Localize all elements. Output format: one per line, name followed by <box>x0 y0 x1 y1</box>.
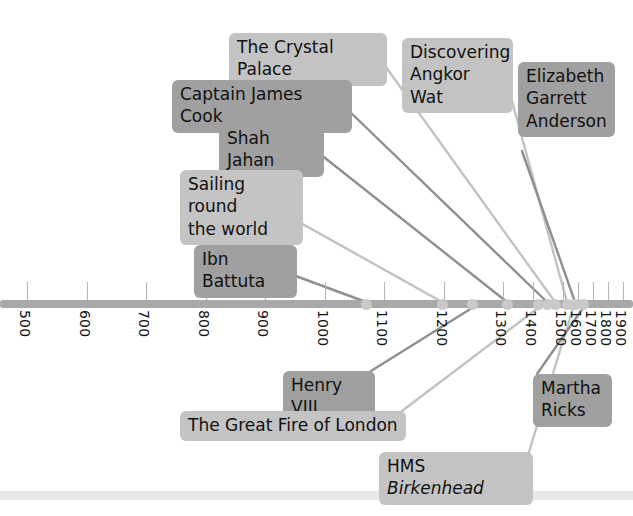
event-label-text: The Crystal Palace <box>237 37 334 79</box>
event-label-elizabeth-garrett-anderson[interactable]: ElizabethGarrettAnderson <box>518 62 615 137</box>
event-label-martha-ricks[interactable]: MarthaRicks <box>533 374 612 427</box>
event-label-shah-jahan[interactable]: Shah Jahan <box>219 124 324 177</box>
event-label-sailing-round-the-world[interactable]: Sailing roundthe world <box>180 170 303 245</box>
event-label-line: Garrett <box>526 87 607 109</box>
event-label-line: Sailing round <box>188 173 295 218</box>
event-label-discovering-angkor-wat[interactable]: DiscoveringAngkor Wat <box>402 38 513 113</box>
event-label-text: Shah Jahan <box>227 128 274 170</box>
event-label-text: The Great Fire of London <box>188 415 398 435</box>
event-label-line: Angkor Wat <box>410 63 505 108</box>
event-label-line: Martha <box>541 377 604 399</box>
event-label-italic-text: Birkenhead <box>387 478 484 498</box>
event-label-the-crystal-palace[interactable]: The Crystal Palace <box>229 33 387 86</box>
connector-line-captain-james-cook <box>348 110 547 302</box>
connector-line-martha-ricks <box>537 308 583 374</box>
footer-rule <box>0 491 633 500</box>
event-label-text: Ibn Battuta <box>202 249 265 291</box>
event-label-line: Ricks <box>541 399 604 421</box>
connector-line-henry-viii <box>371 308 472 371</box>
event-label-hms-birkenhead[interactable]: HMS Birkenhead <box>379 452 533 505</box>
event-label-ibn-battuta[interactable]: Ibn Battuta <box>194 245 297 298</box>
event-label-text: Captain James Cook <box>180 84 302 126</box>
connector-line-ibn-battuta <box>293 275 366 302</box>
event-label-line: the world <box>188 218 295 240</box>
timeline-figure: 5006007008009001000110012001300140015001… <box>0 0 633 516</box>
connector-line-the-great-fire-of-london <box>402 308 538 411</box>
event-label-line: Anderson <box>526 110 607 132</box>
connector-line-elizabeth-garrett-anderson <box>522 151 575 302</box>
event-label-line: Discovering <box>410 41 505 63</box>
connector-line-shah-jahan <box>320 154 507 302</box>
event-label-line: Elizabeth <box>526 65 607 87</box>
event-label-text: HMS <box>387 456 425 476</box>
event-label-the-great-fire-of-london[interactable]: The Great Fire of London <box>180 411 406 441</box>
